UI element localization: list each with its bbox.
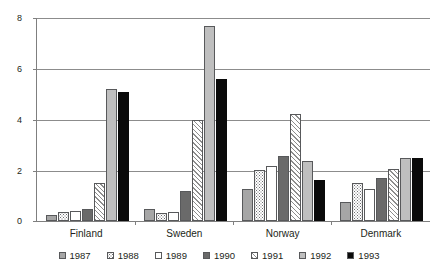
legend-label-1992: 1992 [310,251,331,261]
legend-swatch-1991 [251,252,258,259]
x-axis-label-norway: Norway [234,228,332,239]
bar-denmark-1989 [364,189,375,221]
x-tick-separator [331,221,332,225]
legend-swatch-1990 [203,252,210,259]
y-tick-4 [33,120,37,121]
legend-label-1988: 1988 [118,251,139,261]
bar-sweden-1993 [216,79,227,221]
bar-sweden-1987 [144,209,155,221]
legend-label-1993: 1993 [358,251,379,261]
legend-item-1990[interactable]: 1990 [203,251,235,261]
bar-norway-1992 [302,161,313,221]
bar-sweden-1991 [192,120,203,222]
bar-sweden-1992 [204,26,215,221]
y-axis-label-4: 4 [0,116,22,125]
legend-item-1987[interactable]: 1987 [59,251,91,261]
bar-denmark-1988 [352,183,363,221]
legend-label-1990: 1990 [214,251,235,261]
bar-denmark-1991 [388,169,399,221]
bar-finland-1991 [94,183,105,221]
bar-denmark-1990 [376,178,387,221]
bar-finland-1988 [58,212,69,221]
bar-finland-1990 [82,209,93,221]
x-axis-label-denmark: Denmark [332,228,430,239]
y-axis-label-6: 6 [0,65,22,74]
legend-swatch-1987 [59,252,66,259]
legend-item-1991[interactable]: 1991 [251,251,283,261]
legend-label-1987: 1987 [70,251,91,261]
x-tick-separator [135,221,136,225]
bar-groups [38,18,430,221]
bar-group-finland [38,18,136,221]
plot-area: 8 6 4 2 0 [36,18,430,222]
bar-chart: 8 6 4 2 0 FinlandSwedenNorwayDenmark 198… [0,0,438,273]
bar-denmark-1993 [412,158,423,221]
y-axis-label-8: 8 [0,14,22,23]
bar-sweden-1990 [180,191,191,221]
legend-item-1992[interactable]: 1992 [299,251,331,261]
bar-group-sweden [136,18,234,221]
bar-norway-1991 [290,114,301,221]
y-axis-label-0: 0 [0,217,22,226]
x-axis-labels: FinlandSwedenNorwayDenmark [37,228,430,239]
bar-finland-1989 [70,211,81,221]
y-axis-label-2: 2 [0,167,22,176]
legend-label-1989: 1989 [166,251,187,261]
y-tick-6 [33,69,37,70]
legend-label-1991: 1991 [262,251,283,261]
chart-legend: 1987198819891990199119921993 [0,251,438,261]
bar-norway-1990 [278,156,289,221]
bar-sweden-1989 [168,212,179,221]
legend-swatch-1989 [155,252,162,259]
bar-finland-1992 [106,89,117,221]
bar-sweden-1988 [156,213,167,221]
bar-finland-1987 [46,215,57,221]
legend-swatch-1992 [299,252,306,259]
y-tick-8 [33,18,37,19]
legend-item-1988[interactable]: 1988 [107,251,139,261]
legend-item-1989[interactable]: 1989 [155,251,187,261]
legend-swatch-1993 [347,252,354,259]
bar-finland-1993 [118,92,129,221]
bar-group-denmark [332,18,430,221]
legend-item-1993[interactable]: 1993 [347,251,379,261]
x-tick-separator [233,221,234,225]
y-tick-0 [33,221,37,222]
x-axis-label-sweden: Sweden [135,228,233,239]
legend-swatch-1988 [107,252,114,259]
y-tick-2 [33,171,37,172]
bar-norway-1988 [254,170,265,221]
bar-norway-1993 [314,180,325,221]
bar-norway-1989 [266,166,277,221]
bar-norway-1987 [242,189,253,221]
bar-denmark-1987 [340,202,351,221]
bar-group-norway [234,18,332,221]
x-axis-label-finland: Finland [37,228,135,239]
bar-denmark-1992 [400,158,411,221]
